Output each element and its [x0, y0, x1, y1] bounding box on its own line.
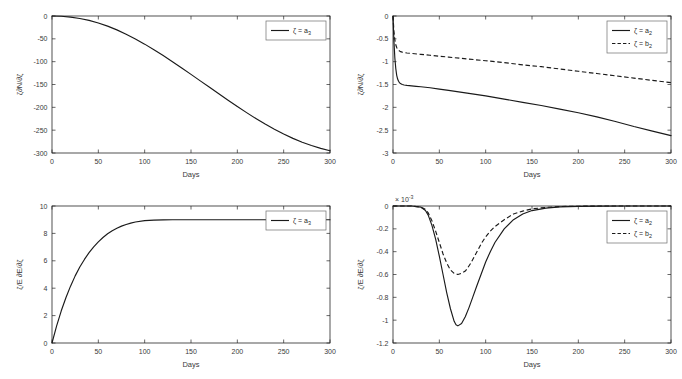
y-tick-label: -100 — [33, 58, 47, 65]
x-tick-label: 200 — [572, 348, 584, 355]
x-tick-label: 150 — [526, 158, 538, 165]
x-axis-label: Days — [523, 170, 540, 179]
y-tick-label: -50 — [37, 35, 47, 42]
x-tick-label: 0 — [50, 348, 54, 355]
x-tick-label: 50 — [435, 348, 443, 355]
y-tick-label: -200 — [33, 104, 47, 111]
x-tick-label: 300 — [665, 348, 677, 355]
x-tick-label: 300 — [324, 158, 336, 165]
x-axis-label: Days — [182, 170, 199, 179]
x-tick-label: 250 — [619, 158, 631, 165]
subplot-bottom-right: 0501001502002503000-0.2-0.4-0.6-0.8-1-1.… — [341, 190, 682, 379]
x-tick-label: 250 — [278, 348, 290, 355]
y-axis-label: ζ∂N/∂ζ — [15, 73, 24, 95]
y-axis-label: ζ/E ∂E/∂ζ — [356, 259, 365, 290]
x-tick-label: 250 — [278, 158, 290, 165]
y-tick-label: 6 — [44, 257, 48, 264]
figure-canvas: 0501001502002503000-50-100-150-200-250-3… — [0, 0, 682, 379]
y-tick-label: -1.5 — [376, 81, 388, 88]
x-tick-label: 200 — [231, 348, 243, 355]
subplot-bottom-left: 0501001502002503000246810Daysζ/E ∂E/∂ζζ … — [0, 190, 341, 379]
x-tick-label: 100 — [480, 348, 492, 355]
y-tick-label: -300 — [33, 150, 47, 157]
y-tick-label: 0 — [44, 340, 48, 347]
y-tick-label: -2 — [382, 104, 388, 111]
x-tick-label: 100 — [139, 348, 151, 355]
y-tick-label: 8 — [44, 230, 48, 237]
y-tick-label: -0.8 — [376, 294, 388, 301]
axis-exponent-label: × 10-3 — [395, 194, 414, 203]
x-tick-label: 100 — [480, 158, 492, 165]
y-tick-label: 0 — [385, 13, 389, 20]
y-tick-label: 10 — [40, 203, 48, 210]
x-tick-label: 300 — [324, 348, 336, 355]
y-tick-label: -0.4 — [376, 248, 388, 255]
y-tick-label: -1 — [382, 317, 388, 324]
x-axis-label: Days — [523, 360, 540, 369]
y-tick-label: -1.2 — [376, 340, 388, 347]
x-tick-label: 150 — [185, 158, 197, 165]
legend-box — [607, 211, 667, 243]
x-tick-label: 50 — [94, 348, 102, 355]
y-axis-label: ζ∂N/∂ζ — [356, 73, 365, 95]
x-tick-label: 0 — [50, 158, 54, 165]
y-tick-label: 2 — [44, 312, 48, 319]
x-tick-label: 0 — [391, 158, 395, 165]
x-tick-label: 200 — [572, 158, 584, 165]
y-tick-label: -1 — [382, 58, 388, 65]
x-axis-label: Days — [182, 360, 199, 369]
y-tick-label: -250 — [33, 127, 47, 134]
y-tick-label: -3 — [382, 150, 388, 157]
x-tick-label: 50 — [94, 158, 102, 165]
y-tick-label: -150 — [33, 81, 47, 88]
y-tick-label: -0.5 — [376, 35, 388, 42]
data-curve-1 — [52, 220, 330, 343]
legend-box — [607, 21, 667, 53]
y-tick-label: 0 — [44, 13, 48, 20]
y-tick-label: -0.2 — [376, 225, 388, 232]
y-tick-label: -2.5 — [376, 127, 388, 134]
x-tick-label: 150 — [526, 348, 538, 355]
x-tick-label: 0 — [391, 348, 395, 355]
x-tick-label: 250 — [619, 348, 631, 355]
x-tick-label: 200 — [231, 158, 243, 165]
subplot-top-right: 0501001502002503000-0.5-1-1.5-2-2.5-3Day… — [341, 0, 682, 189]
y-tick-label: -0.6 — [376, 271, 388, 278]
x-tick-label: 100 — [139, 158, 151, 165]
y-tick-label: 4 — [44, 285, 48, 292]
x-tick-label: 50 — [435, 158, 443, 165]
x-tick-label: 150 — [185, 348, 197, 355]
subplot-top-left: 0501001502002503000-50-100-150-200-250-3… — [0, 0, 341, 189]
y-axis-label: ζ/E ∂E/∂ζ — [15, 259, 24, 290]
y-tick-label: 0 — [385, 203, 389, 210]
x-tick-label: 300 — [665, 158, 677, 165]
